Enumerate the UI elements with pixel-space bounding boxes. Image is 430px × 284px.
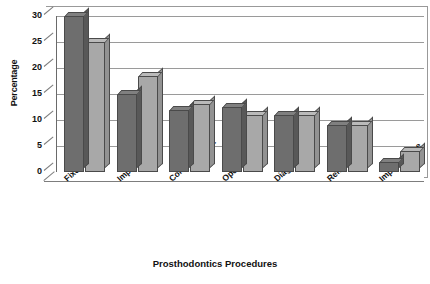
bar-side-face bbox=[158, 67, 163, 168]
bar-group bbox=[266, 16, 319, 172]
x-axis-title: Prosthodontics Procedures bbox=[0, 258, 430, 269]
bar-chart-figure: 30 25 20 15 10 5 0 Percentage FixedImpla… bbox=[0, 0, 430, 284]
bar bbox=[169, 110, 189, 172]
depth-tick bbox=[44, 136, 54, 144]
depth-tick bbox=[44, 84, 54, 92]
bar-front-face bbox=[222, 107, 242, 172]
y-tick-label: 0 bbox=[8, 167, 42, 176]
bar-side-face bbox=[105, 33, 110, 168]
bar-group bbox=[56, 16, 109, 172]
bar bbox=[222, 107, 242, 172]
bar-front-face bbox=[169, 110, 189, 172]
y-axis-title: Percentage bbox=[9, 43, 19, 123]
bar bbox=[64, 16, 84, 172]
bar-group bbox=[214, 16, 267, 172]
bar-front-face bbox=[64, 16, 84, 172]
bar-front-face bbox=[327, 125, 347, 172]
bar-side-face bbox=[294, 106, 299, 168]
depth-tick bbox=[44, 162, 54, 170]
bar bbox=[379, 162, 399, 172]
bar-top-face bbox=[138, 72, 163, 77]
bar-front-face bbox=[379, 162, 399, 172]
depth-tick bbox=[44, 58, 54, 66]
y-tick-label: 5 bbox=[8, 141, 42, 150]
bar-group bbox=[371, 16, 424, 172]
bar-group bbox=[161, 16, 214, 172]
y-tick-label: 30 bbox=[8, 11, 42, 20]
bar bbox=[274, 115, 294, 172]
depth-tick bbox=[44, 32, 54, 40]
bar-side-face bbox=[242, 98, 247, 168]
bars-layer bbox=[56, 16, 424, 172]
depth-tick bbox=[44, 110, 54, 118]
bar-group bbox=[319, 16, 372, 172]
bar-side-face bbox=[189, 101, 194, 168]
bar-top-face bbox=[222, 103, 247, 108]
bar-top-face bbox=[117, 90, 142, 95]
bar bbox=[117, 94, 137, 172]
bar-group bbox=[109, 16, 162, 172]
x-axis-tick-labels: FixedImplant RestComplete DentOperativeD… bbox=[56, 176, 430, 246]
bar-side-face bbox=[315, 106, 320, 168]
bar-front-face bbox=[274, 115, 294, 172]
bar-top-face bbox=[169, 106, 194, 111]
bar-side-face bbox=[84, 7, 89, 168]
depth-tick bbox=[44, 6, 54, 14]
bar-side-face bbox=[263, 106, 268, 168]
bar-side-face bbox=[210, 96, 215, 168]
bar-side-face bbox=[137, 85, 142, 168]
bar-front-face bbox=[117, 94, 137, 172]
bar bbox=[327, 125, 347, 172]
